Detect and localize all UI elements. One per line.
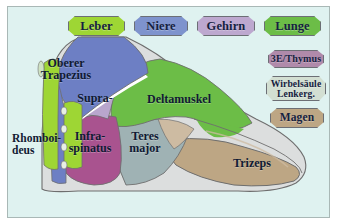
spine-notch-3: [61, 143, 67, 151]
organ-badge-wirbelsaeule[interactable]: Wirbelsäule Lenkerg.: [266, 76, 326, 101]
figure-plate: Leber Niere Gehirn Lunge 3E/Thymus Wirbe…: [7, 6, 330, 218]
anatomy-figure: Leber Niere Gehirn Lunge 3E/Thymus Wirbe…: [0, 0, 337, 224]
organ-badge-magen[interactable]: Magen: [270, 108, 324, 128]
spine-notch-4: [61, 161, 67, 169]
spine-notch-1: [61, 107, 67, 115]
organ-badge-leber[interactable]: Leber: [68, 16, 125, 36]
organ-badge-thymus[interactable]: 3E/Thymus: [268, 50, 324, 68]
organ-badge-gehirn[interactable]: Gehirn: [197, 16, 255, 36]
scapula-notch: [38, 61, 44, 77]
rhomboideus-region: [43, 59, 61, 170]
organ-badge-lunge[interactable]: Lunge: [264, 16, 321, 36]
spine-notch-2: [61, 125, 67, 133]
organ-badge-niere[interactable]: Niere: [134, 16, 188, 36]
